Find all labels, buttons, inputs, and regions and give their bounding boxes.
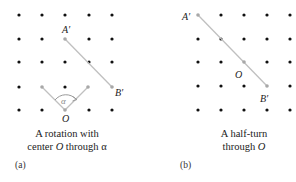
panel-label-b: (b): [180, 160, 191, 171]
label-a-prime-b: A′: [181, 11, 191, 22]
point-b-prime-a: [110, 85, 114, 89]
label-o-a: O: [62, 113, 69, 124]
label-a-prime-a: A′: [61, 24, 71, 35]
panel-b: A′ O B′ A half-turn through O (b): [180, 11, 292, 171]
ray-o-right: [65, 87, 88, 110]
point-b-prime-b: [265, 84, 269, 88]
segment-a-prime-b-prime-b: [198, 15, 267, 86]
arrowhead-icon: [73, 97, 78, 102]
caption-a-line1: A rotation with: [35, 128, 99, 139]
caption-b-line1: A half-turn: [221, 128, 268, 139]
point-a-prime-a: [63, 37, 67, 41]
figure: A′ B′ O α A rotation with center O throu…: [0, 0, 296, 182]
point-a-prime-b: [196, 13, 200, 17]
point-o-a: [63, 108, 67, 112]
label-b-prime-b: B′: [260, 93, 269, 104]
panel-a: A′ B′ O α A rotation with center O throu…: [15, 13, 124, 171]
point-ray-right-a: [86, 85, 90, 89]
segment-a-prime-b-prime: [65, 39, 112, 87]
panel-label-a: (a): [15, 160, 26, 171]
label-b-prime-a: B′: [115, 87, 124, 98]
point-ray-left-a: [40, 85, 44, 89]
label-alpha: α: [61, 96, 66, 106]
label-o-b: O: [235, 69, 242, 80]
caption-b-line2: through O: [223, 141, 266, 152]
caption-a-line2: center O through α: [27, 141, 107, 152]
point-o-b: [242, 60, 246, 64]
